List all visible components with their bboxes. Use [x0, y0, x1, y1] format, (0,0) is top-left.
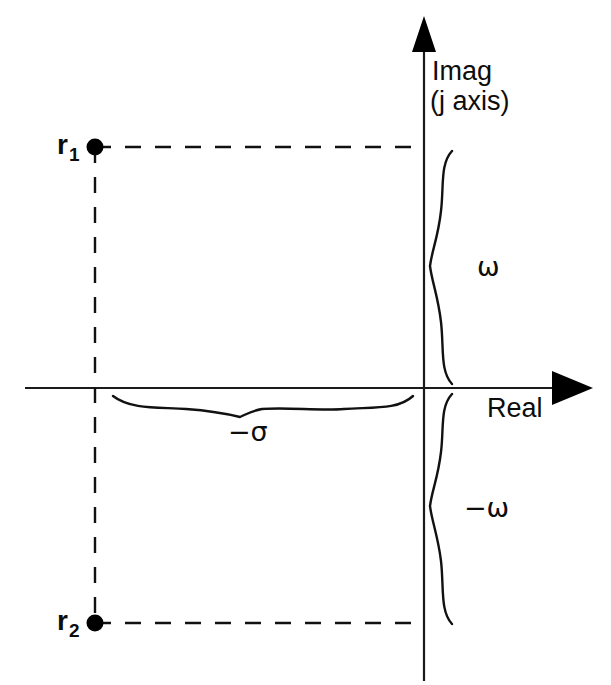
- s-plane-diagram: Imag (j axis) Real r1 r2 ω −ω −σ: [0, 0, 611, 685]
- construction-lines-group: [95, 147, 424, 623]
- pole-label-r1-base: r: [57, 129, 68, 160]
- imaginary-axis-label-line2: (j axis): [430, 88, 510, 115]
- real-axis-arrow-icon: [552, 371, 593, 405]
- pole-marker-r2: [87, 615, 104, 632]
- imaginary-axis-label-line1: Imag: [432, 58, 492, 85]
- pole-label-r2-subscript: 2: [69, 620, 80, 641]
- real-axis-label: Real: [487, 395, 543, 422]
- brace-neg-sigma-icon: [113, 396, 413, 417]
- brace-label-neg-omega: −ω: [464, 494, 509, 521]
- brace-neg-omega-icon: [430, 394, 452, 624]
- pole-label-r1: r1: [57, 131, 78, 159]
- pole-label-r2-base: r: [57, 605, 68, 636]
- brace-label-neg-sigma: −σ: [228, 418, 268, 445]
- pole-label-r2: r2: [57, 607, 78, 635]
- brace-omega-icon: [430, 151, 452, 384]
- pole-marker-r1: [87, 139, 104, 156]
- brace-label-omega: ω: [477, 253, 500, 280]
- pole-label-r1-subscript: 1: [69, 144, 80, 165]
- diagram-canvas: [0, 0, 611, 685]
- imaginary-axis-arrow-icon: [412, 16, 436, 52]
